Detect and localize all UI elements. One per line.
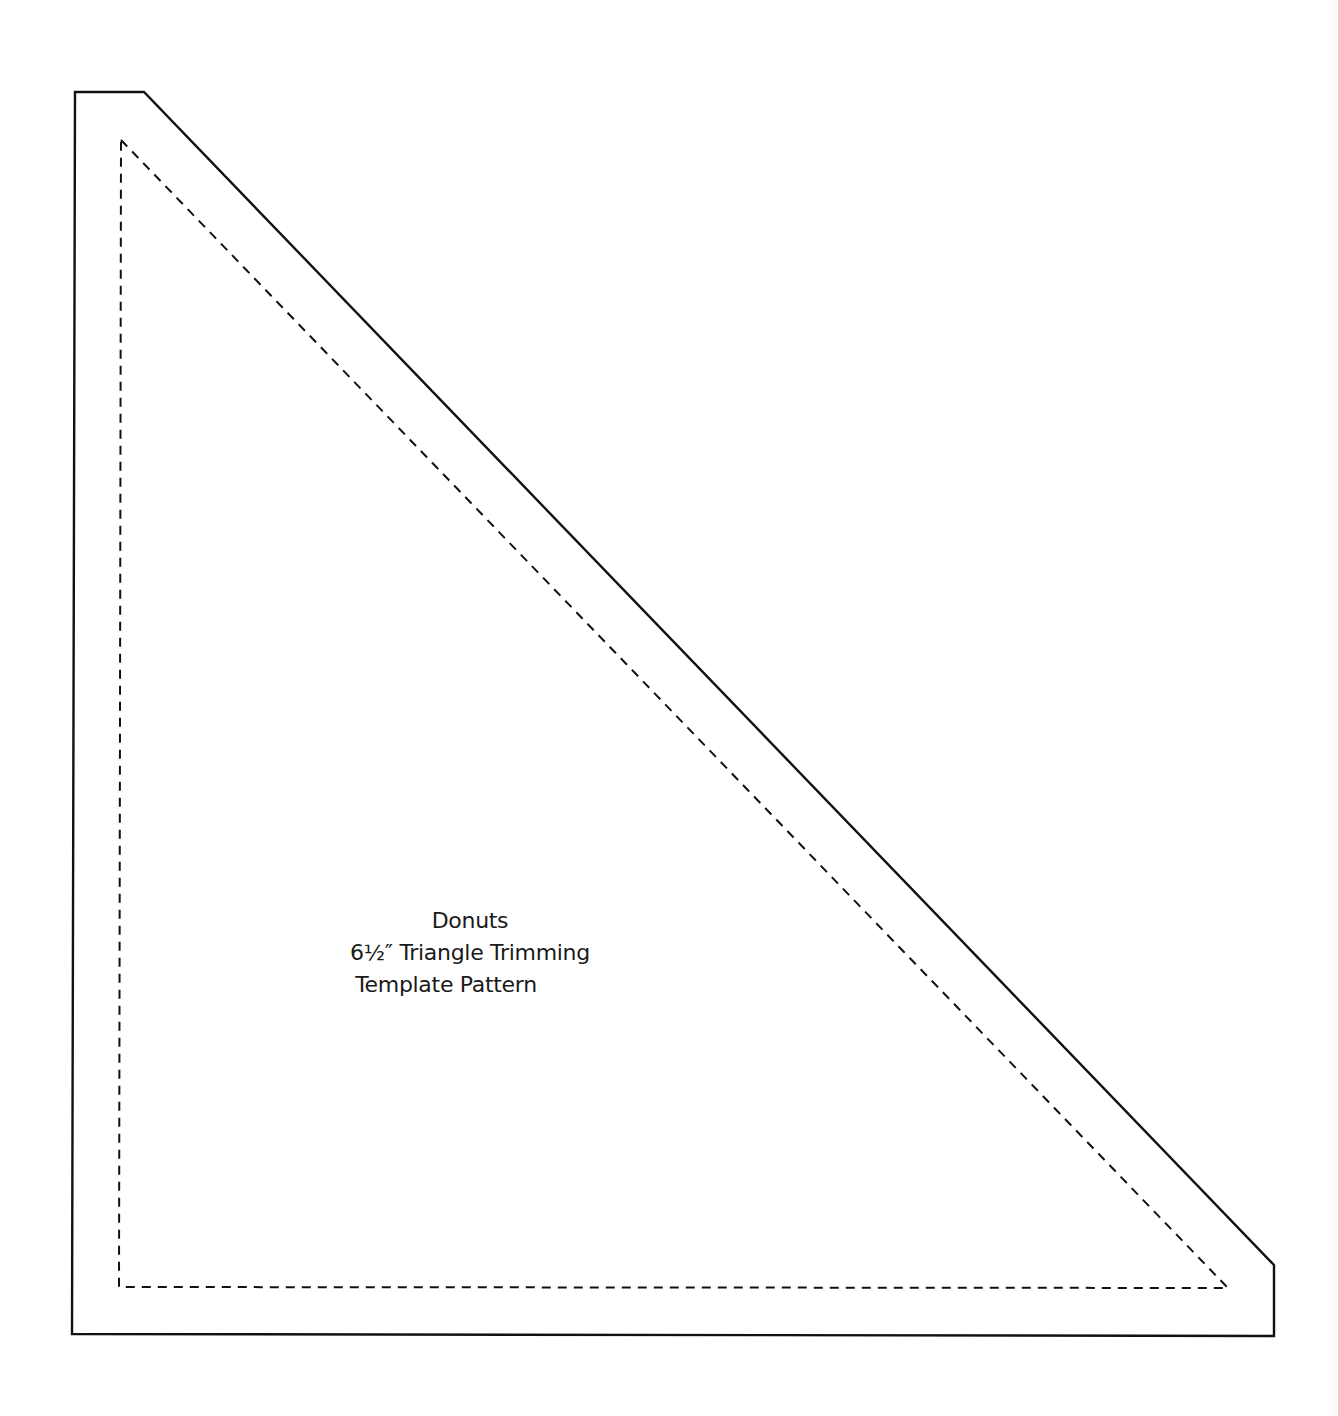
triangle-template-drawing [0, 0, 1338, 1416]
outer-cut-line [72, 92, 1274, 1336]
template-label: Donuts 6½″ Triangle Trimming Template Pa… [330, 905, 610, 1001]
scan-edge-artifact [1326, 0, 1338, 1416]
label-size: 6½″ Triangle Trimming [330, 937, 610, 969]
label-subtitle: Template Pattern [330, 969, 610, 1001]
label-title: Donuts [330, 905, 610, 937]
template-page: Donuts 6½″ Triangle Trimming Template Pa… [0, 0, 1338, 1416]
inner-seam-line [119, 140, 1228, 1288]
